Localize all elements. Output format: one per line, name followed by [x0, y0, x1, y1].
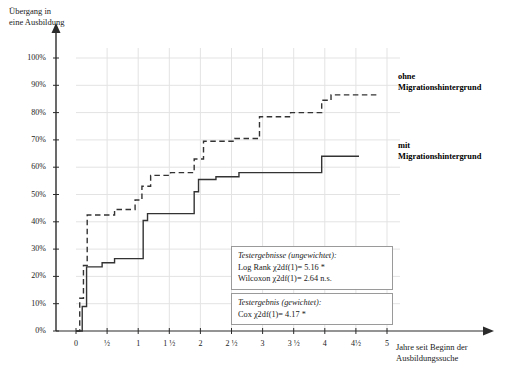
series-label-ohne-migrationshintergrund: ohne Migrationshintergrund	[398, 71, 481, 93]
y-tick-label: 70%	[18, 135, 46, 144]
x-tick-label: 4	[310, 339, 340, 348]
y-tick-label: 10%	[18, 299, 46, 308]
annotation-line: Log Rank χ2df(1)= 5.16 *	[238, 262, 386, 274]
series-label-mit-migrationshintergrund: mit Migrationshintergrund	[398, 140, 481, 162]
x-tick-label: 2 ½	[217, 339, 247, 348]
x-tick-label: 4½	[341, 339, 371, 348]
y-tick-label: 80%	[18, 108, 46, 117]
x-tick-label: ½	[92, 339, 122, 348]
chart-page: Übergang in eine Ausbildung Jahre seit B…	[0, 0, 517, 379]
annotation-line: Wilcoxon χ2df(1)= 2.64 n.s.	[238, 273, 386, 285]
x-tick-label: 3 ½	[279, 339, 309, 348]
annotation-box-testergebnis-gewichtet: Testergebnis (gewichtet): Cox χ2df(1)= 4…	[231, 293, 393, 325]
annotation-header: Testergebnis (gewichtet):	[238, 297, 386, 309]
y-axis-title: Übergang in eine Ausbildung	[9, 6, 64, 28]
x-tick-label: 1 ½	[154, 339, 184, 348]
x-tick-label: 2	[185, 339, 215, 348]
x-axis-arrow-icon	[483, 327, 494, 336]
y-tick-label: 100%	[18, 53, 46, 62]
annotation-header: Testergebnisse (ungewichtet):	[238, 250, 386, 262]
x-tick-label: 3	[248, 339, 278, 348]
y-tick-label: 60%	[18, 162, 46, 171]
x-axis-title: Jahre seit Beginn der Ausbildungssuche	[396, 342, 514, 364]
y-tick-label: 40%	[18, 217, 46, 226]
y-tick-label: 30%	[18, 244, 46, 253]
x-tick-label: 5	[372, 339, 402, 348]
x-tick-label: 1	[123, 339, 153, 348]
annotation-line: Cox χ2df(1)= 4.17 *	[238, 309, 386, 321]
y-tick-label: 20%	[18, 271, 46, 280]
x-tick-label: 0	[61, 339, 91, 348]
y-tick-label: 90%	[18, 80, 46, 89]
y-tick-label: 50%	[18, 190, 46, 199]
annotation-box-testergebnisse-ungewichtet: Testergebnisse (ungewichtet): Log Rank χ…	[231, 246, 393, 290]
y-tick-label: 0%	[18, 326, 46, 335]
